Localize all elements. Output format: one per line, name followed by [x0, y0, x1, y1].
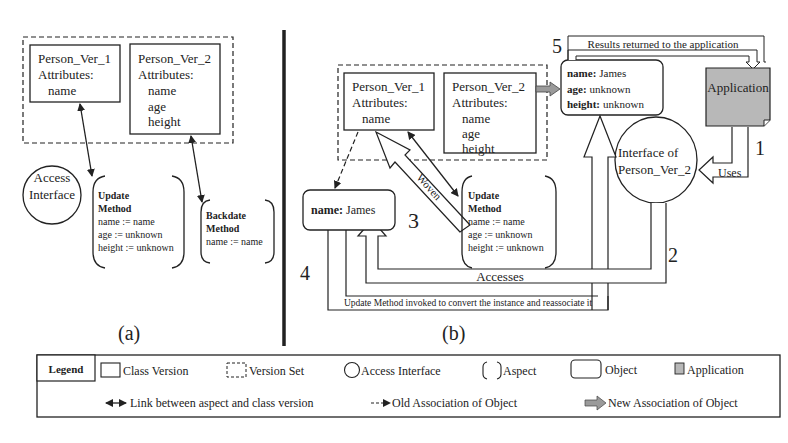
svg-text:Accesses: Accesses	[476, 269, 524, 284]
attr: age	[148, 99, 166, 114]
svg-text:Update: Update	[98, 190, 130, 201]
attr: height	[148, 114, 181, 129]
svg-text:Interface of: Interface of	[618, 145, 679, 160]
step-1: 1	[755, 137, 765, 159]
application-box: Application	[706, 68, 770, 126]
step-2: 2	[668, 244, 678, 266]
update-aspect-a: Update Method name := name age := unknow…	[93, 176, 184, 268]
update-aspect-b: Update Method name := name age := unknow…	[462, 176, 556, 268]
svg-text:name: name	[462, 111, 490, 126]
svg-text:Access: Access	[34, 170, 71, 185]
svg-text:name := name: name := name	[468, 216, 525, 227]
attr-label: Attributes:	[138, 67, 194, 82]
diagram-canvas: Person_Ver_1 Attributes: name Person_Ver…	[0, 0, 788, 443]
svg-text:age := unknown: age := unknown	[468, 229, 533, 240]
attr: name	[148, 83, 176, 98]
svg-text:Object: Object	[605, 363, 638, 377]
panel-a-label: (a)	[118, 322, 140, 345]
svg-text:height := unknown: height := unknown	[468, 242, 544, 253]
uses-arrow: Uses	[699, 127, 748, 183]
svg-text:Person_Ver_2: Person_Ver_2	[452, 79, 525, 94]
new-object: name:James age:unknown height:unknown	[561, 60, 663, 115]
svg-text:height:unknown: height:unknown	[567, 98, 644, 110]
svg-text:Aspect: Aspect	[503, 364, 537, 378]
svg-text:age: age	[462, 126, 480, 141]
link-backdate-v2	[191, 136, 202, 202]
svg-text:Update: Update	[468, 190, 500, 201]
svg-text:name: name	[362, 111, 390, 126]
class-title: Person_Ver_2	[138, 51, 211, 66]
panel-a: Person_Ver_1 Attributes: name Person_Ver…	[23, 37, 274, 345]
svg-text:Version Set: Version Set	[249, 364, 305, 378]
panel-b: Person_Ver_1 Attributes: name Person_Ver…	[300, 35, 770, 345]
svg-text:age:unknown: age:unknown	[567, 83, 631, 95]
class-version-b-v1: Person_Ver_1 Attributes: name	[344, 73, 434, 130]
svg-text:height: height	[462, 141, 495, 156]
svg-text:Backdate: Backdate	[206, 210, 247, 221]
backdate-aspect-a: Backdate Method name := name	[201, 200, 274, 263]
svg-text:Person_Ver_1: Person_Ver_1	[352, 79, 425, 94]
svg-text:Uses: Uses	[718, 166, 742, 180]
svg-text:Class Version: Class Version	[123, 364, 188, 378]
step-3: 3	[408, 208, 419, 233]
svg-text:Interface: Interface	[29, 187, 75, 202]
application-icon	[675, 363, 684, 374]
svg-text:Results returned to the applic: Results returned to the application	[588, 38, 739, 50]
class-version-b-v2: Person_Ver_2 Attributes: name age height	[444, 73, 536, 156]
svg-text:Method: Method	[98, 203, 132, 214]
attr: name	[48, 83, 76, 98]
step-4: 4	[300, 262, 310, 284]
svg-text:Old Association of Object: Old Association of Object	[392, 396, 518, 410]
svg-text:Application: Application	[687, 363, 744, 377]
class-title: Person_Ver_1	[38, 51, 111, 66]
svg-text:Method: Method	[468, 203, 502, 214]
class-version-a-v1: Person_Ver_1 Attributes: name	[30, 45, 120, 102]
svg-text:Application: Application	[707, 80, 769, 95]
new-association-arrow	[536, 82, 560, 96]
step-5: 5	[552, 35, 562, 57]
svg-text:name := name: name := name	[206, 236, 263, 247]
svg-text:name := name: name := name	[98, 216, 155, 227]
svg-text:height := unknown: height := unknown	[98, 242, 174, 253]
svg-text:Attributes:: Attributes:	[352, 95, 408, 110]
old-object: name:James	[303, 190, 395, 230]
legend: Legend Class Version Version Set Access …	[37, 355, 780, 417]
link-update-v1	[80, 104, 92, 176]
attr-label: Attributes:	[38, 67, 94, 82]
interface-person-ver-2: Interface of Person_Ver_2	[615, 117, 697, 203]
svg-text:Link between aspect and class: Link between aspect and class version	[130, 396, 314, 410]
svg-text:age := unknown: age := unknown	[98, 229, 163, 240]
legend-title: Legend	[49, 363, 84, 375]
svg-text:Method: Method	[206, 223, 240, 234]
class-version-a-v2: Person_Ver_2 Attributes: name age height	[130, 44, 220, 134]
svg-text:New Association of Object: New Association of Object	[608, 396, 738, 410]
access-interface-a: Access Interface	[23, 166, 81, 224]
svg-text:Update Method invoked to conve: Update Method invoked to convert the ins…	[344, 298, 593, 308]
svg-text:Attributes:: Attributes:	[452, 95, 508, 110]
svg-text:Access Interface: Access Interface	[361, 364, 441, 378]
svg-text:Person_Ver_2: Person_Ver_2	[618, 162, 691, 177]
panel-b-label: (b)	[442, 322, 465, 345]
